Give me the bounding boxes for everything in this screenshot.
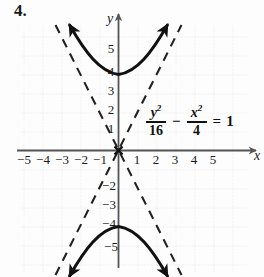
x-tick-label--5: −5 [15, 152, 33, 168]
fraction-numerator-x-squared: x2 [188, 106, 206, 121]
x-tick-label-2: 2 [149, 152, 163, 168]
fraction-x-squared-over-4: x2 4 [187, 106, 207, 138]
y-tick-label--4: −4 [99, 216, 119, 232]
hyperbola-plot [0, 0, 264, 277]
equation-rhs: 1 [226, 114, 234, 130]
y-tick-label--3: −3 [99, 197, 119, 213]
figure-container: 4. [0, 0, 264, 277]
exponent-2: 2 [157, 103, 162, 113]
x-tick-label-5: 5 [206, 152, 220, 168]
x-tick-label--4: −4 [34, 152, 52, 168]
variable-x: x [191, 105, 198, 120]
fraction-denominator-4: 4 [190, 123, 203, 138]
x-tick-label--2: −2 [72, 152, 90, 168]
y-tick-label-3: 3 [104, 83, 118, 99]
y-tick-label-5: 5 [104, 41, 118, 57]
plot-grid [21, 25, 248, 273]
x-tick-label-3: 3 [168, 152, 182, 168]
y-axis-label: y [107, 11, 113, 27]
y-tick-label--5: −5 [104, 239, 118, 255]
equation-annotation: y2 16 − x2 4 = 1 [145, 106, 234, 138]
y-tick-label-1: 1 [104, 121, 118, 137]
y-tick-label-4: 4 [104, 64, 118, 80]
minus-operator: − [172, 114, 181, 130]
x-tick-label-1: 1 [130, 152, 144, 168]
fraction-y-squared-over-16: y2 16 [146, 106, 166, 138]
equals-sign: = [213, 114, 222, 130]
fraction-denominator-16: 16 [146, 123, 166, 138]
x-axis-label: x [254, 148, 260, 164]
y-tick-label--2: −2 [99, 178, 119, 194]
exponent-2: 2 [198, 103, 203, 113]
fraction-numerator-y-squared: y2 [148, 106, 165, 121]
y-tick-label-2: 2 [104, 102, 118, 118]
x-tick-label--3: −3 [53, 152, 71, 168]
x-tick-label-4: 4 [187, 152, 201, 168]
x-tick-label--1: −1 [91, 152, 109, 168]
